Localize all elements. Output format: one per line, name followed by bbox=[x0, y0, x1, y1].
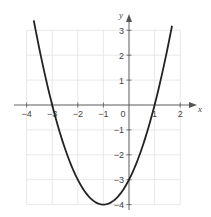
y-tick-label: −2 bbox=[114, 150, 124, 160]
x-tick-label: 0 bbox=[120, 109, 125, 119]
x-tick-label: −2 bbox=[73, 109, 83, 119]
y-tick-label: −1 bbox=[114, 125, 124, 135]
x-tick-label: −4 bbox=[21, 109, 31, 119]
x-tick-label: −1 bbox=[98, 109, 108, 119]
y-tick-label: 3 bbox=[119, 26, 124, 36]
y-axis-arrow-icon bbox=[126, 14, 132, 22]
y-tick-label: 1 bbox=[119, 76, 124, 86]
x-tick-label: 2 bbox=[178, 109, 183, 119]
y-axis-label: y bbox=[118, 10, 123, 20]
y-tick-label: 2 bbox=[119, 51, 124, 61]
tick-labels: −4−3−2−1012321−1−2−3−4 bbox=[21, 26, 182, 210]
x-axis-arrow-icon bbox=[189, 102, 197, 108]
y-tick-label: −4 bbox=[114, 200, 124, 210]
parabola-chart: −4−3−2−1012321−1−2−3−4 x y bbox=[0, 0, 211, 217]
x-axis-label: x bbox=[197, 104, 202, 114]
y-tick-label: −3 bbox=[114, 175, 124, 185]
